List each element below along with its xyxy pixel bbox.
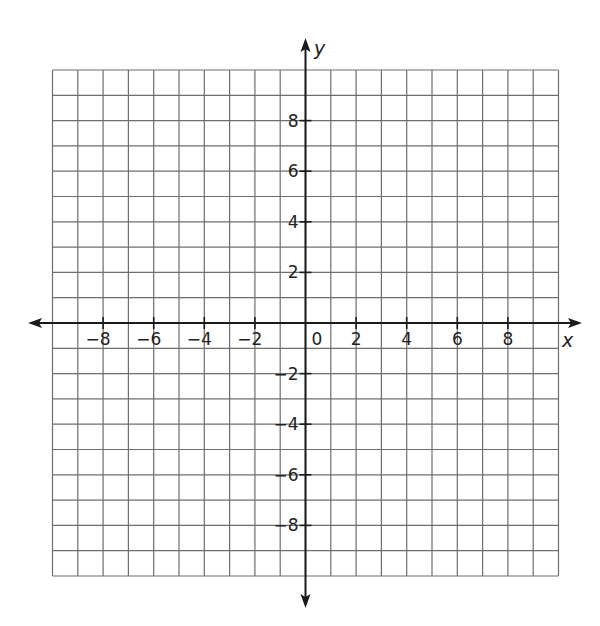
x-tick-label: 8: [502, 329, 513, 349]
y-tick-label: 8: [288, 111, 299, 131]
y-tick-label: 6: [288, 161, 299, 181]
axes: [28, 38, 582, 608]
y-tick-label: −8: [273, 515, 298, 535]
y-tick-label: −6: [273, 465, 298, 485]
x-tick-label: 2: [351, 329, 362, 349]
x-tick-label: 6: [452, 329, 463, 349]
x-axis-label: x: [561, 329, 574, 351]
x-tick-label: −6: [136, 329, 161, 349]
y-axis-label: y: [313, 37, 326, 59]
y-tick-label: −2: [273, 364, 298, 384]
x-tick-label: −2: [237, 329, 262, 349]
y-tick-label: 4: [288, 212, 299, 232]
x-tick-label: −8: [86, 329, 111, 349]
x-tick-label: −4: [187, 329, 212, 349]
coordinate-plane: −8−6−4−224688642−2−4−6−8 0 x y: [0, 0, 600, 626]
origin-label: 0: [312, 329, 323, 349]
y-tick-label: −4: [273, 414, 298, 434]
y-tick-label: 2: [288, 262, 299, 282]
x-tick-label: 4: [401, 329, 412, 349]
